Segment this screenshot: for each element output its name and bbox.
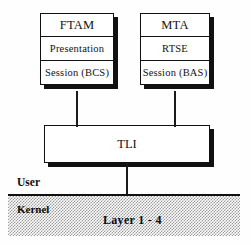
- stack-cell-label: FTAM: [60, 18, 95, 33]
- protocol-stack-ftam: FTAM Presentation Session (BCS): [40, 13, 114, 85]
- stack-cell-rtse: RTSE: [140, 36, 210, 61]
- stack-cell-label: Session (BCS): [45, 67, 109, 78]
- connector-ftam-to-tli: [76, 91, 78, 127]
- user-space-label: User: [17, 176, 40, 188]
- stack-cell-mta: MTA: [140, 13, 210, 38]
- protocol-stack-mta: MTA RTSE Session (BAS): [140, 13, 210, 85]
- stack-cell-label: Presentation: [50, 43, 104, 54]
- stack-cell-presentation: Presentation: [40, 36, 114, 61]
- stack-cells: MTA RTSE Session (BAS): [140, 13, 210, 85]
- stack-cell-label: RTSE: [162, 43, 188, 54]
- transport-layer-interface-box: TLI: [44, 125, 210, 163]
- stack-cell-label: Session (BAS): [143, 67, 208, 78]
- stack-cell-session-bcs: Session (BCS): [40, 60, 114, 85]
- diagram-canvas: FTAM Presentation Session (BCS) MTA RTSE…: [0, 0, 251, 245]
- user-kernel-divider: [8, 194, 240, 196]
- stack-cell-session-bas: Session (BAS): [140, 60, 210, 85]
- kernel-space-label: Kernel: [17, 203, 49, 215]
- stack-cells: FTAM Presentation Session (BCS): [40, 13, 114, 85]
- stack-cell-ftam: FTAM: [40, 13, 114, 38]
- kernel-band-label: Layer 1 - 4: [103, 213, 162, 228]
- stack-cell-label: MTA: [161, 18, 188, 33]
- connector-tli-to-kernel: [126, 163, 128, 196]
- connector-mta-to-tli: [174, 91, 176, 127]
- tli-inner: TLI: [44, 125, 210, 163]
- tli-label: TLI: [117, 137, 136, 152]
